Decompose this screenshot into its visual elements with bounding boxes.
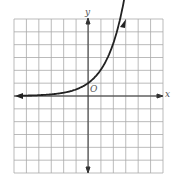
origin-label: O bbox=[90, 84, 97, 94]
curve-left-arrow-icon bbox=[15, 93, 23, 99]
x-axis-arrow-icon bbox=[157, 94, 163, 98]
coordinate-plane bbox=[0, 0, 175, 185]
y-axis-label: y bbox=[85, 7, 90, 17]
x-axis-label: x bbox=[165, 89, 170, 99]
y-axis-arrow-down-icon bbox=[86, 167, 90, 173]
curve bbox=[19, 0, 125, 96]
curve-right-arrow-icon bbox=[120, 19, 126, 28]
